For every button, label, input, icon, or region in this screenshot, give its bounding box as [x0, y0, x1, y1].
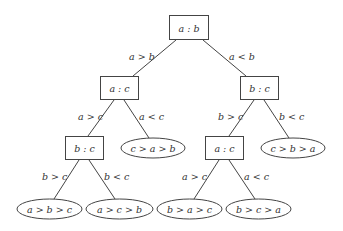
- leaf-b-a-c: b > a > c: [157, 199, 222, 219]
- leaf-c-b-a-label: c > b > a: [270, 143, 315, 154]
- edge-label-rl-rll: a > c: [182, 171, 208, 182]
- leaf-a-b-c: a > b > c: [17, 199, 82, 219]
- edge-label-r-rl: b > c: [218, 111, 244, 122]
- edge-label-ll-lll: b > c: [42, 171, 68, 182]
- node-left-left-label: b : c: [74, 143, 95, 154]
- leaf-b-c-a-label: b > c > a: [236, 204, 281, 215]
- leaf-c-a-b: c > a > b: [121, 138, 185, 158]
- edge-label-l-ll: a > c: [78, 111, 104, 122]
- node-left-left: b : c: [66, 137, 104, 160]
- edge-label-r-rr: b < c: [279, 111, 305, 122]
- leaf-b-c-a: b > c > a: [226, 199, 291, 219]
- leaf-b-a-c-label: b > a > c: [167, 204, 213, 215]
- edge-label-root-left: a > b: [129, 51, 155, 62]
- leaf-a-c-b-label: a > c > b: [97, 204, 142, 215]
- edge-label-l-lr: a < c: [139, 111, 165, 122]
- leaf-a-c-b: a > c > b: [86, 199, 153, 219]
- edge-label-ll-llr: b < c: [104, 171, 130, 182]
- leaf-a-b-c-label: a > b > c: [27, 204, 73, 215]
- node-right: b : c: [241, 77, 279, 100]
- edge-label-rl-rlr: a < c: [244, 171, 270, 182]
- node-right-left-label: a : c: [214, 143, 235, 154]
- leaf-c-a-b-label: c > a > b: [130, 143, 175, 154]
- node-left: a : c: [101, 77, 139, 100]
- edge-label-root-right: a < b: [229, 51, 255, 62]
- node-left-label: a : c: [109, 83, 130, 94]
- node-right-label: b : c: [249, 83, 270, 94]
- decision-tree-diagram: a > b a < b a > c a < c b > c b < c b > …: [0, 0, 343, 231]
- leaf-c-b-a: c > b > a: [261, 138, 325, 158]
- node-root: a : b: [170, 16, 209, 40]
- node-right-left: a : c: [206, 137, 244, 160]
- node-root-label: a : b: [179, 23, 200, 34]
